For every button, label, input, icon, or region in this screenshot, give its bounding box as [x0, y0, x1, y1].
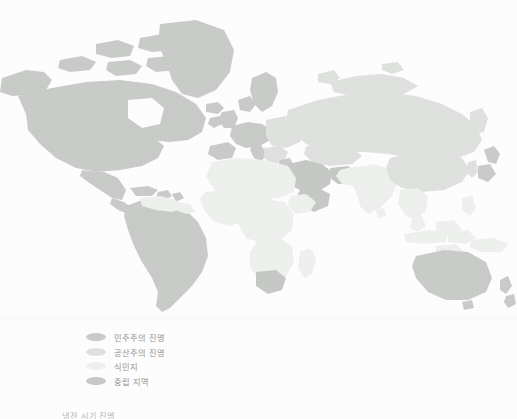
legend-item-neutral-region: 중립 지역 — [86, 374, 286, 389]
colony-swatch-icon — [86, 362, 106, 370]
world-map — [0, 0, 517, 320]
region-antarctic-edge — [0, 316, 517, 320]
region-oceania — [412, 250, 516, 310]
world-map-svg — [0, 0, 517, 320]
democratic-bloc-swatch-icon — [86, 333, 106, 341]
legend-label-neutral-region: 중립 지역 — [114, 375, 149, 387]
figure-page: 민주주의 진영 공산주의 진영 식민지 중립 지역 냉전 시기 진영 — [0, 0, 517, 419]
figure-caption: 냉전 시기 진영 — [62, 409, 115, 419]
communist-bloc-swatch-icon — [86, 348, 106, 356]
region-south-america — [124, 196, 208, 312]
region-soviet-union — [286, 62, 488, 166]
legend-label-democratic-bloc: 민주주의 진영 — [114, 331, 165, 343]
legend-label-communist-bloc: 공산주의 진영 — [114, 346, 165, 358]
neutral-region-swatch-icon — [86, 377, 106, 385]
legend-item-democratic-bloc: 민주주의 진영 — [86, 330, 286, 345]
legend-item-communist-bloc: 공산주의 진영 — [86, 345, 286, 360]
legend-label-colony: 식민지 — [114, 360, 138, 372]
map-legend: 민주주의 진영 공산주의 진영 식민지 중립 지역 — [86, 330, 286, 388]
region-north-america — [0, 20, 234, 214]
legend-item-colony: 식민지 — [86, 359, 286, 374]
region-asia — [336, 142, 508, 256]
